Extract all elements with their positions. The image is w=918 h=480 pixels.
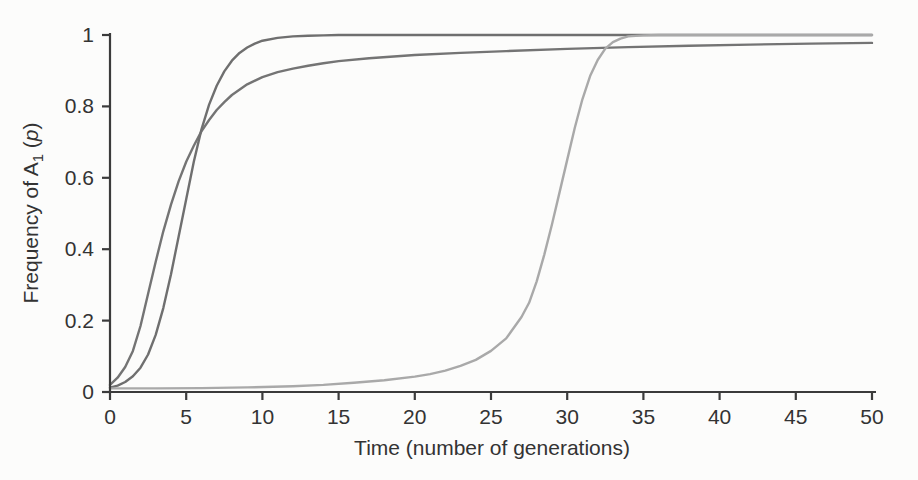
early-rise-slow-fixation-curve xyxy=(110,43,872,385)
y-axis-title-prefix: Frequency of A xyxy=(19,162,42,303)
y-axis-title-mid: ( xyxy=(19,141,42,154)
x-tick-label: 0 xyxy=(104,405,116,428)
x-tick-label: 40 xyxy=(708,405,731,428)
y-axis-title: Frequency of A1 (p) xyxy=(19,122,46,303)
x-tick-label: 30 xyxy=(556,405,579,428)
x-tick-label: 10 xyxy=(251,405,274,428)
y-tick-label: 1 xyxy=(82,23,94,46)
x-axis-title: Time (number of generations) xyxy=(354,436,630,459)
x-tick-label: 35 xyxy=(632,405,655,428)
y-axis-title-subscript: 1 xyxy=(29,154,46,162)
x-tick-label: 20 xyxy=(403,405,426,428)
x-tick-label: 25 xyxy=(479,405,502,428)
x-tick-label: 50 xyxy=(860,405,883,428)
x-tick-label: 45 xyxy=(784,405,807,428)
y-tick-label: 0 xyxy=(82,380,94,403)
y-tick-label: 0.8 xyxy=(65,94,94,117)
y-tick-label: 0.6 xyxy=(65,166,94,189)
y-tick-label: 0.2 xyxy=(65,309,94,332)
y-axis-title-variable: p xyxy=(19,129,42,142)
x-tick-label: 15 xyxy=(327,405,350,428)
sigmoid-rapid-fixation-curve xyxy=(110,35,872,388)
y-tick-label: 0.4 xyxy=(65,237,95,260)
series-layer xyxy=(110,35,872,388)
y-axis-title-suffix: ) xyxy=(19,122,42,129)
chart-canvas: 0510152025303540455000.20.40.60.81 Time … xyxy=(0,0,918,480)
selection-frequency-chart: 0510152025303540455000.20.40.60.81 Time … xyxy=(0,0,918,480)
delayed-rise-rapid-fixation-curve xyxy=(110,35,872,388)
axes-layer: 0510152025303540455000.20.40.60.81 xyxy=(65,23,884,428)
x-tick-label: 5 xyxy=(180,405,192,428)
